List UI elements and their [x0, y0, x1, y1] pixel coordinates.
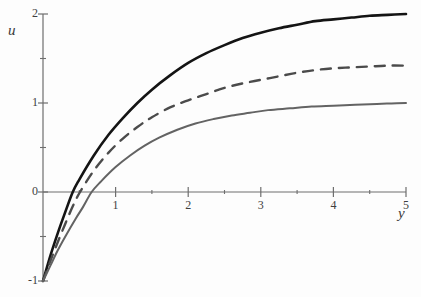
y-axis-title: u: [8, 22, 16, 39]
x-tick-label: 4: [323, 198, 343, 213]
curve-upper-curve: [43, 14, 406, 281]
ticks-group: [38, 14, 406, 281]
y-tick-label: 1: [18, 95, 38, 110]
y-tick-label: 2: [18, 6, 38, 21]
data-series-group: [43, 14, 406, 281]
x-tick-label: 5: [396, 198, 416, 213]
chart-container: u y 12345210-1: [0, 0, 421, 297]
x-tick-label: 1: [106, 198, 126, 213]
curve-middle-curve: [43, 66, 406, 281]
y-tick-label: -1: [18, 273, 38, 288]
x-tick-label: 3: [251, 198, 271, 213]
y-tick-label: 0: [18, 184, 38, 199]
axes-group: [43, 14, 406, 281]
plot-area: [0, 0, 421, 297]
x-tick-label: 2: [178, 198, 198, 213]
